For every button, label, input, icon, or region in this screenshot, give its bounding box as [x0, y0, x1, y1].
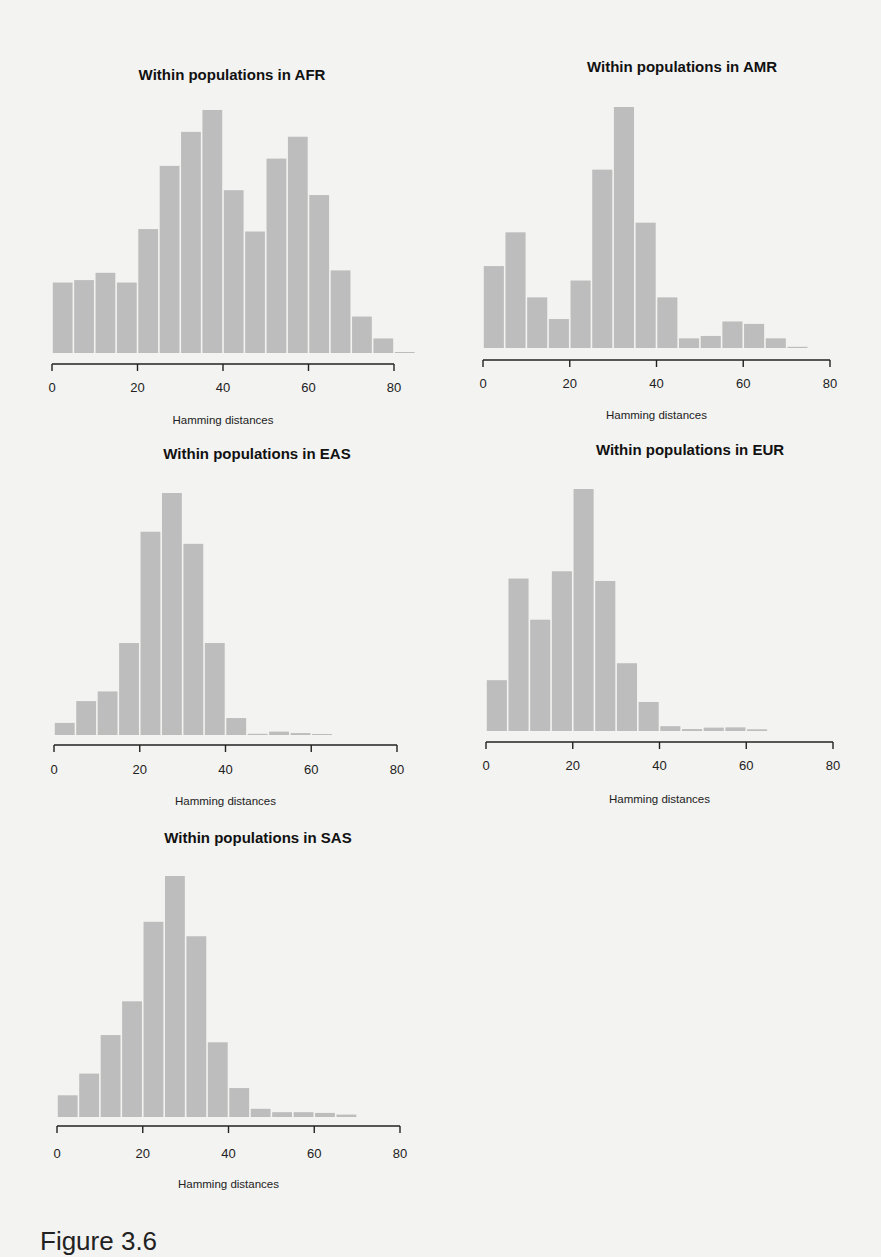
x-tick-label: 60	[307, 1146, 321, 1161]
histogram-bar	[315, 1113, 335, 1117]
histogram-bar	[272, 1112, 292, 1117]
histogram-bar	[79, 1074, 99, 1117]
histogram-bar	[251, 1109, 271, 1117]
histogram-bar	[165, 876, 185, 1117]
histogram-bar	[294, 1112, 314, 1117]
x-tick-label: 20	[136, 1146, 150, 1161]
x-tick-label: 80	[393, 1146, 407, 1161]
histogram-bar	[229, 1088, 249, 1117]
figure-caption: Figure 3.6	[40, 1226, 157, 1257]
x-tick-label: 40	[221, 1146, 235, 1161]
x-axis-label: Hamming distances	[178, 1178, 279, 1190]
histogram-bar	[58, 1095, 78, 1117]
histogram-bar	[144, 922, 164, 1117]
histogram-bar	[336, 1115, 356, 1117]
histogram-bar	[101, 1035, 121, 1117]
histogram-bar	[186, 936, 206, 1117]
histogram-bar	[122, 1001, 142, 1117]
histogram-bar	[208, 1042, 228, 1117]
x-tick-label: 0	[53, 1146, 60, 1161]
